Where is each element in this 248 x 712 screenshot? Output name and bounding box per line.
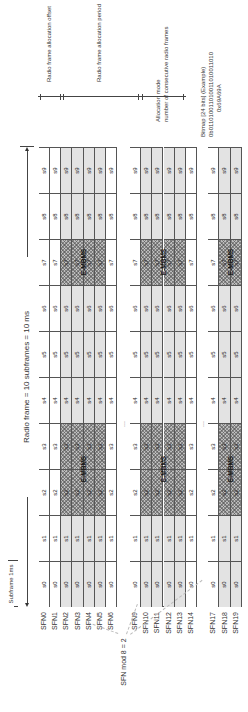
subframe-cell: s4 <box>130 377 141 423</box>
subframe-cell: s1 <box>186 515 197 561</box>
sfn-row-sfn2: s0s1s2s3s4s5s6s7s8s9 <box>61 147 72 607</box>
subframe-cell: s6 <box>208 285 219 331</box>
sfn-row-sfn18: s0s1s2s3s4s5s6s7s8s9 <box>219 147 230 607</box>
subframe-cell: s4 <box>152 377 163 423</box>
subframe-cell: s8 <box>106 193 117 239</box>
subframe-cell: s7 <box>95 239 106 285</box>
subframe-cell: s0 <box>152 561 163 607</box>
subframe-cell: s9 <box>152 147 163 193</box>
subframe-cell: s8 <box>175 193 186 239</box>
subframe-cell: s6 <box>130 285 141 331</box>
subframe-cell: s0 <box>84 561 95 607</box>
subframe-cell: s5 <box>130 331 141 377</box>
subframe-cell: s1 <box>95 515 106 561</box>
sfn-row-sfn19: s0s1s2s3s4s5s6s7s8s9 <box>231 147 242 607</box>
subframe-cell: s8 <box>39 193 50 239</box>
embms-label: E-MBMS <box>160 423 167 515</box>
subframe-cell: s1 <box>130 515 141 561</box>
subframe-cell: s9 <box>208 147 219 193</box>
subframe-cell: s1 <box>50 515 61 561</box>
subframe-cell: s7 <box>130 239 141 285</box>
sfn-label: SFN11 <box>153 612 160 652</box>
subframe-cell: s2 <box>106 469 117 515</box>
subframe-cell: s2 <box>39 469 50 515</box>
subframe-cell: s9 <box>231 147 242 193</box>
sfn-row-sfn9: s0s1s2s3s4s5s6s7s8s9 <box>130 147 141 607</box>
subframe-cell: s3 <box>208 423 219 469</box>
subframe-cell: s4 <box>39 377 50 423</box>
sfn-row-sfn17: s0s1s2s3s4s5s6s7s8s9 <box>208 147 219 607</box>
sfn-row-sfn10: s0s1s2s3s4s5s6s7s8s9 <box>141 147 152 607</box>
subframe-cell: s4 <box>84 377 95 423</box>
subframe-cell: s5 <box>208 331 219 377</box>
subframe-cell: s0 <box>231 561 242 607</box>
subframe-cell: s5 <box>164 331 175 377</box>
subframe-cell: s9 <box>72 147 83 193</box>
subframe-cell: s7 <box>141 239 152 285</box>
subframe-cell: s3 <box>106 423 117 469</box>
subframe-cell: s1 <box>39 515 50 561</box>
subframe-cell: s3 <box>130 423 141 469</box>
subframe-cell: s3 <box>61 423 72 469</box>
subframe-cell: s0 <box>39 561 50 607</box>
subframe-cell: s6 <box>50 285 61 331</box>
subframe-cell: s1 <box>61 515 72 561</box>
alloc-mode-label-2: number of consecutive radio frames <box>163 2 169 122</box>
sfn-label: SFN0 <box>40 612 47 652</box>
subframe-cell: s8 <box>164 193 175 239</box>
subframe-cell: s8 <box>219 193 230 239</box>
subframe-cell: s7 <box>50 239 61 285</box>
mbsfn-allocation-diagram: Radio frame = 10 subframes = 10 ms Subfr… <box>0 0 248 712</box>
subframe-cell: s0 <box>208 561 219 607</box>
sfn-label: SFN12 <box>165 612 172 652</box>
embms-label: E-MBMS <box>227 239 234 285</box>
embms-label: E-MBMS <box>227 423 234 515</box>
subframe-cell: s6 <box>39 285 50 331</box>
sfn-label: SFN5 <box>96 612 103 652</box>
subframe-cell: s0 <box>72 561 83 607</box>
subframe-cell: s0 <box>141 561 152 607</box>
subframe-cell: s1 <box>152 515 163 561</box>
sfn-label: SFN19 <box>232 612 239 652</box>
subframe-cell: s4 <box>95 377 106 423</box>
subframe-cell: s0 <box>219 561 230 607</box>
subframe-cell: s2 <box>50 469 61 515</box>
subframe-cell: s1 <box>141 515 152 561</box>
subframe-cell: s2 <box>186 469 197 515</box>
subframe-cell: s8 <box>95 193 106 239</box>
sfn-row-sfn0: s0s1s2s3s4s5s6s7s8s9 <box>39 147 50 607</box>
subframe-cell: s0 <box>95 561 106 607</box>
sfn-row-sfn5: s0s1s2s3s4s5s6s7s8s9 <box>95 147 106 607</box>
subframe-cell: s7 <box>208 239 219 285</box>
subframe-cell: s5 <box>186 331 197 377</box>
subframe-cell: s7 <box>61 239 72 285</box>
sfn-label: SFN4 <box>85 612 92 652</box>
subframe-cell: s1 <box>72 515 83 561</box>
subframe-cell: s2 <box>130 469 141 515</box>
subframe-cell: s0 <box>106 561 117 607</box>
subframe-cell: s8 <box>50 193 61 239</box>
arrow-right-icon <box>25 147 29 151</box>
subframe-cell: s8 <box>141 193 152 239</box>
sfn-row-sfn13: s0s1s2s3s4s5s6s7s8s9 <box>175 147 186 607</box>
subframe-cell: s6 <box>219 285 230 331</box>
subframe-cell: s6 <box>152 285 163 331</box>
subframe-cell: s1 <box>84 515 95 561</box>
subframe-cell: s5 <box>152 331 163 377</box>
subframe-cell: s9 <box>175 147 186 193</box>
subframe-cell: s4 <box>61 377 72 423</box>
subframe-cell: s4 <box>72 377 83 423</box>
subframe-cell: s6 <box>141 285 152 331</box>
subframe-cell: s6 <box>175 285 186 331</box>
subframe-cell: s5 <box>50 331 61 377</box>
subframe-cell: s6 <box>186 285 197 331</box>
offset-label: Radio frame allocation offset <box>46 2 52 82</box>
subframe-cell: s4 <box>219 377 230 423</box>
sfn-row-sfn3: s0s1s2s3s4s5s6s7s8s9 <box>72 147 83 607</box>
subframe-cell: s9 <box>61 147 72 193</box>
alloc-mode-label-1: Allocation mode <box>155 42 161 122</box>
subframe-cell: s3 <box>175 423 186 469</box>
subframe-cell: s3 <box>50 423 61 469</box>
subframe-cell: s0 <box>130 561 141 607</box>
ellipsis-2: ... <box>198 421 205 427</box>
